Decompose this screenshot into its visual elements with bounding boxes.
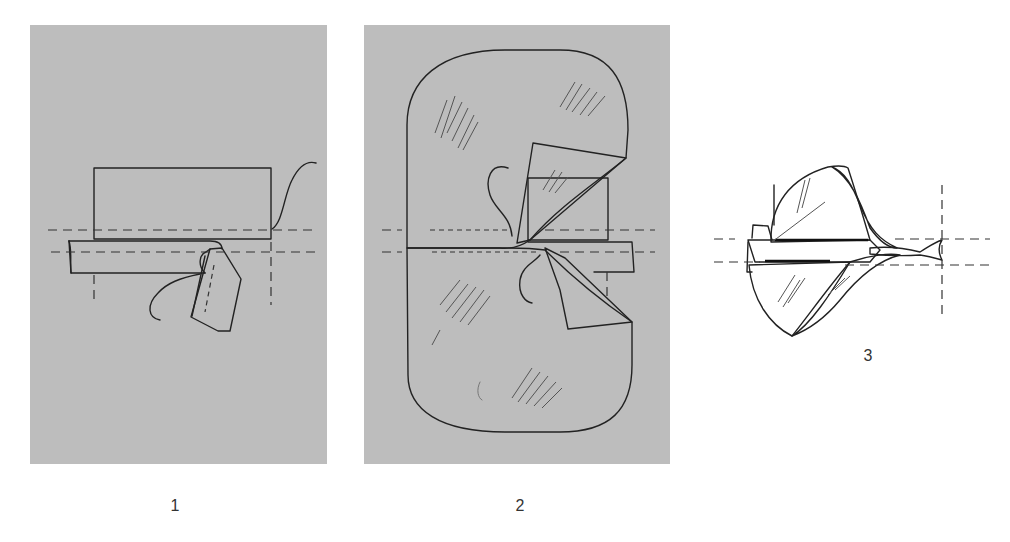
figure-1-label: 1 xyxy=(155,497,195,515)
figure-2-label: 2 xyxy=(500,497,540,515)
left-flap xyxy=(752,225,772,240)
lower-lobe xyxy=(749,262,850,336)
diagram-canvas xyxy=(0,0,1010,542)
figure-3 xyxy=(714,166,990,336)
panel-2-background xyxy=(364,25,670,464)
figure-2 xyxy=(364,25,670,464)
upper-wing xyxy=(832,167,897,248)
panel-1-background xyxy=(30,25,327,464)
upper-lobe xyxy=(771,166,870,242)
figure-1 xyxy=(30,25,327,464)
figure-3-label: 3 xyxy=(848,347,888,365)
twisted-end xyxy=(870,240,942,260)
